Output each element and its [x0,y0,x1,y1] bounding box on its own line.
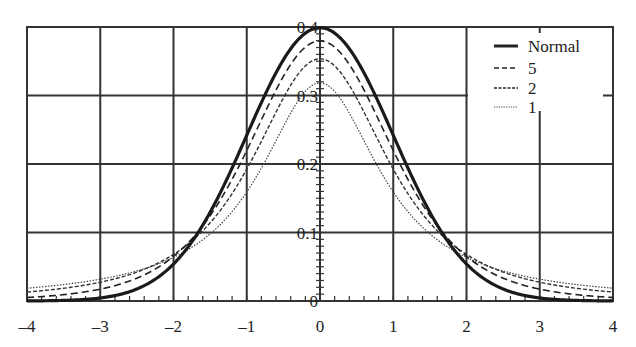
y-tick-label: 0.4 [297,18,319,37]
legend-label-5: 5 [528,59,537,78]
x-axis-tick-labels: –4–3–2–101234 [18,317,618,336]
x-tick-label: –1 [237,317,255,336]
x-tick-label: –3 [91,317,109,336]
x-tick-label: 3 [536,317,545,336]
x-tick-label: 2 [462,317,471,336]
x-tick-label: –4 [18,317,37,336]
y-tick-label: 0.2 [297,155,318,174]
x-tick-label: 4 [609,317,618,336]
x-tick-label: 1 [389,317,398,336]
x-tick-label: 0 [316,317,325,336]
y-axis-tick-labels: 00.10.20.30.4 [297,18,319,311]
legend-label-normal: Normal [528,37,580,56]
legend: Normal 5 2 1 [468,33,603,117]
y-tick-label: 0.3 [297,87,318,106]
y-tick-label: 0 [310,292,319,311]
x-tick-label: –2 [164,317,182,336]
y-tick-label: 0.1 [297,224,318,243]
t-distribution-chart: –4–3–2–101234 00.10.20.30.4 Normal 5 2 1 [0,0,636,347]
legend-label-2: 2 [528,79,537,98]
legend-label-1: 1 [528,98,537,117]
